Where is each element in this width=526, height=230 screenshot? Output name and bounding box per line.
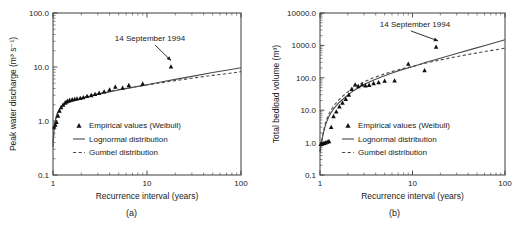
legend-label: Lognormal distribution xyxy=(89,135,168,144)
x-axis-label: Recurrence interval (years) xyxy=(96,191,199,201)
y-tick-label: 1.0 xyxy=(305,139,317,148)
legend-label: Gumbel distribution xyxy=(89,148,158,157)
plot-area-b: 1101000.11.010.0100.01000.010000.0Recurr… xyxy=(263,0,526,230)
data-point-triangle xyxy=(127,83,132,87)
data-point-triangle xyxy=(120,86,125,90)
empirical-points xyxy=(52,64,173,129)
legend-marker-triangle xyxy=(345,123,350,128)
legend-label: Gumbel distribution xyxy=(358,148,427,157)
legend: Empirical values (Weibull)Lognormal dist… xyxy=(342,121,450,157)
figure-panel-a: 1101000.11.010.0100.0Recurrence interval… xyxy=(0,0,263,230)
panel-caption-a: (a) xyxy=(0,208,263,218)
x-tick-label: 10 xyxy=(143,179,152,188)
y-axis-label: Total bedload volume (m³) xyxy=(271,45,281,143)
y-tick-label: 10.0 xyxy=(300,106,316,115)
panel-caption-b: (b) xyxy=(263,208,526,218)
y-tick-label: 1000.0 xyxy=(292,41,317,50)
data-point-triangle xyxy=(331,114,336,118)
annotation-arrow-head xyxy=(433,38,438,42)
legend-label: Empirical values (Weibull) xyxy=(358,121,450,130)
event-annotation-label: 14 September 1994 xyxy=(115,34,186,43)
legend-marker-triangle xyxy=(76,123,81,128)
x-axis-label: Recurrence interval (years) xyxy=(361,191,464,201)
data-point-triangle xyxy=(107,87,112,91)
y-tick-label: 10000.0 xyxy=(287,9,316,18)
data-point-triangle xyxy=(334,109,339,113)
y-axis-label: Peak water discharge (m³ s⁻¹) xyxy=(8,37,18,151)
lognormal-curve xyxy=(53,68,241,144)
data-point-triangle xyxy=(349,87,354,91)
data-point-triangle xyxy=(392,78,397,82)
y-tick-label: 0.1 xyxy=(38,171,50,180)
data-point-triangle xyxy=(97,91,102,95)
legend-label: Empirical values (Weibull) xyxy=(89,121,181,130)
y-tick-label: 0.1 xyxy=(305,171,317,180)
data-point-triangle xyxy=(422,68,427,72)
x-tick-label: 1 xyxy=(51,179,56,188)
x-tick-label: 1 xyxy=(318,179,323,188)
data-point-triangle xyxy=(344,97,349,101)
y-tick-label: 100.0 xyxy=(296,74,317,83)
data-point-triangle xyxy=(382,79,387,83)
data-point-triangle xyxy=(113,84,118,88)
data-point-triangle xyxy=(371,81,376,85)
x-tick-label: 100 xyxy=(498,179,512,188)
data-point-triangle xyxy=(434,44,439,48)
data-point-triangle xyxy=(140,81,145,85)
y-tick-label: 100.0 xyxy=(29,9,50,18)
data-point-triangle xyxy=(353,82,358,86)
figure-panel-b: 1101000.11.010.0100.01000.010000.0Recurr… xyxy=(263,0,526,230)
y-tick-label: 1.0 xyxy=(38,117,50,126)
empirical-points xyxy=(319,44,439,146)
legend: Empirical values (Weibull)Lognormal dist… xyxy=(73,121,181,157)
data-point-triangle xyxy=(169,64,174,68)
data-point-triangle xyxy=(85,94,90,98)
data-point-triangle xyxy=(376,80,381,84)
legend-label: Lognormal distribution xyxy=(358,135,437,144)
data-point-triangle xyxy=(406,61,411,65)
y-tick-label: 10.0 xyxy=(33,63,49,72)
annotation-arrow-line xyxy=(411,31,438,41)
x-tick-label: 10 xyxy=(408,179,417,188)
x-tick-label: 100 xyxy=(234,179,248,188)
event-annotation-label: 14 September 1994 xyxy=(380,20,451,29)
data-point-triangle xyxy=(329,125,334,129)
data-point-triangle xyxy=(102,89,107,93)
plot-area-a: 1101000.11.010.0100.0Recurrence interval… xyxy=(0,0,263,230)
